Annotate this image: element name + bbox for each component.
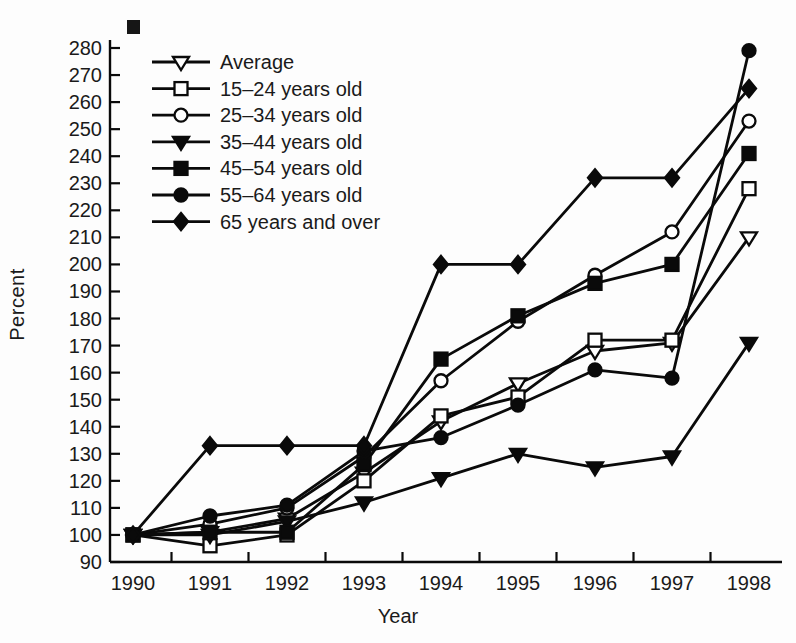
legend-item-average: Average [152, 51, 294, 73]
legend-label: 15–24 years old [220, 78, 362, 100]
legend-label: 55–64 years old [220, 184, 362, 206]
x-axis-title: Year [0, 605, 796, 628]
y-tick-label: 190 [69, 280, 102, 302]
y-tick-label: 220 [69, 199, 102, 221]
legend-item-45-54-years-old: 45–54 years old [152, 157, 362, 179]
legend-item-15-24-years-old: 15–24 years old [152, 78, 362, 100]
y-tick-label: 170 [69, 335, 102, 357]
circle-filled-marker [175, 189, 188, 202]
y-axis-title: Percent [6, 230, 29, 380]
circle-open-marker [743, 115, 756, 128]
y-tick-label: 90 [80, 551, 102, 573]
legend-label: 25–34 years old [220, 104, 362, 126]
square-filled-marker [175, 162, 188, 175]
y-tick-label: 120 [69, 470, 102, 492]
square-filled-marker [743, 147, 756, 160]
square-filled-marker [358, 458, 371, 471]
y-tick-label: 130 [69, 443, 102, 465]
x-tick-label: 1994 [419, 572, 464, 594]
x-tick-label: 1995 [496, 572, 541, 594]
legend-item-55-64-years-old: 55–64 years old [152, 184, 362, 206]
legend-item-35-44-years-old: 35–44 years old [152, 131, 362, 153]
y-tick-label: 250 [69, 118, 102, 140]
circle-open-marker [666, 225, 679, 238]
x-tick-label: 1996 [573, 572, 618, 594]
square-open-marker [435, 409, 448, 422]
y-tick-label: 240 [69, 145, 102, 167]
square-open-marker [589, 334, 602, 347]
square-open-marker [666, 334, 679, 347]
line-chart-figure: Percent 90100110120130140150160170180190… [0, 0, 796, 643]
y-tick-label: 100 [69, 524, 102, 546]
square-filled-marker [512, 309, 525, 322]
square-filled-marker [435, 353, 448, 366]
square-open-marker [743, 182, 756, 195]
y-tick-label: 150 [69, 389, 102, 411]
y-tick-label: 270 [69, 64, 102, 86]
y-tick-label: 200 [69, 253, 102, 275]
square-open-marker [358, 474, 371, 487]
diamond-filled-marker [174, 213, 188, 230]
y-tick-label: 140 [69, 416, 102, 438]
legend: Average15–24 years old25–34 years old35–… [152, 51, 380, 233]
square-open-marker [175, 82, 188, 95]
chart-canvas: 9010011012013014015016017018019020021022… [0, 0, 796, 643]
x-tick-label: 1991 [188, 572, 233, 594]
y-tick-label: 260 [69, 91, 102, 113]
square-filled-marker [589, 277, 602, 290]
series-line [133, 189, 749, 546]
circle-open-marker [175, 109, 188, 122]
diamond-filled-marker [434, 256, 448, 273]
y-tick-label: 280 [69, 37, 102, 59]
legend-label: 45–54 years old [220, 157, 362, 179]
y-tick-label: 180 [69, 308, 102, 330]
square-filled-marker [281, 526, 294, 539]
triangle-down-filled-marker [587, 462, 603, 475]
legend-item-25-34-years-old: 25–34 years old [152, 104, 362, 126]
legend-label: 65 years and over [220, 211, 380, 233]
circle-filled-marker [281, 499, 294, 512]
circle-filled-marker [435, 431, 448, 444]
scan-artifact-mark [127, 20, 140, 34]
triangle-down-open-marker [173, 57, 189, 70]
circle-filled-marker [589, 363, 602, 376]
y-tick-label: 160 [69, 362, 102, 384]
triangle-down-filled-marker [173, 137, 189, 150]
x-tick-label: 1997 [650, 572, 695, 594]
legend-label: Average [220, 51, 294, 73]
diamond-filled-marker [280, 437, 294, 454]
square-filled-marker [666, 258, 679, 271]
legend-item-65-years-and-over: 65 years and over [152, 211, 380, 233]
y-tick-label: 210 [69, 226, 102, 248]
circle-filled-marker [666, 372, 679, 385]
square-filled-marker [204, 526, 217, 539]
x-tick-label: 1993 [342, 572, 387, 594]
y-tick-label: 230 [69, 172, 102, 194]
circle-filled-marker [204, 510, 217, 523]
x-tick-label: 1990 [111, 572, 156, 594]
circle-filled-marker [512, 399, 525, 412]
y-tick-label: 110 [70, 497, 102, 519]
circle-filled-marker [743, 44, 756, 57]
x-tick-label: 1998 [727, 572, 772, 594]
series-line [133, 89, 749, 535]
x-tick-label: 1992 [265, 572, 310, 594]
circle-open-marker [435, 374, 448, 387]
legend-label: 35–44 years old [220, 131, 362, 153]
